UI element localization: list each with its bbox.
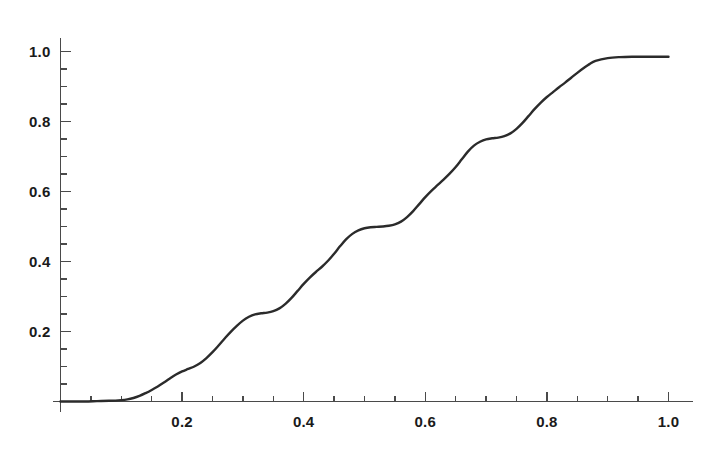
x-tick-label: 0.2 — [152, 413, 212, 430]
y-tick-label: 1.0 — [3, 43, 51, 60]
x-tick-label: 0.8 — [517, 413, 577, 430]
y-tick-label: 0.4 — [3, 253, 51, 270]
axes-group — [53, 38, 693, 412]
data-line-cdf — [61, 57, 669, 402]
y-tick-label: 0.6 — [3, 183, 51, 200]
x-tick-label: 0.4 — [274, 413, 334, 430]
chart-figure: 0.20.40.60.81.0 0.20.40.60.81.0 — [0, 0, 701, 461]
y-tick-label: 0.8 — [3, 113, 51, 130]
plot-canvas — [0, 0, 701, 461]
x-tick-label: 1.0 — [639, 413, 699, 430]
data-series-group — [61, 57, 669, 402]
y-tick-label: 0.2 — [3, 323, 51, 340]
x-tick-label: 0.6 — [395, 413, 455, 430]
